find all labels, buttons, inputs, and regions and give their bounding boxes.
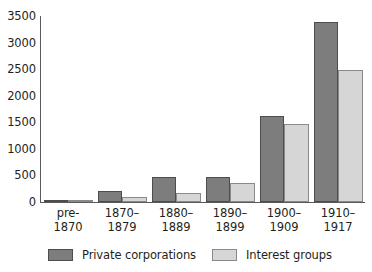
x-axis-line <box>40 202 365 203</box>
bar <box>260 116 285 202</box>
bar <box>314 22 339 202</box>
bar-group <box>257 16 311 202</box>
bar <box>206 177 231 202</box>
legend-item[interactable]: Private corporations <box>48 246 196 264</box>
y-tick-label: 2500 <box>7 64 36 75</box>
x-axis-label-line: 1870 <box>41 220 95 234</box>
x-axis-label-line: 1890– <box>203 206 257 220</box>
y-tick-label: 1500 <box>7 117 36 128</box>
bar-group <box>203 16 257 202</box>
y-tick-label: 3500 <box>7 11 36 22</box>
bar <box>338 70 363 202</box>
bar <box>176 193 201 202</box>
y-tick-label: 3000 <box>7 37 36 48</box>
legend-item[interactable]: Interest groups <box>212 246 332 264</box>
x-axis-label-line: 1879 <box>95 220 149 234</box>
bar <box>230 183 255 202</box>
bar-group <box>95 16 149 202</box>
y-tick-label: 2000 <box>7 90 36 101</box>
legend-label: Private corporations <box>82 249 196 261</box>
x-axis-label-line: 1880– <box>149 206 203 220</box>
x-axis-category-labels: pre-18701870–18791880–18891890–18991900–… <box>41 206 365 240</box>
x-axis-label: pre-1870 <box>41 206 95 234</box>
legend-label: Interest groups <box>246 249 332 261</box>
x-axis-label-line: 1870– <box>95 206 149 220</box>
x-axis-label: 1900–1909 <box>257 206 311 234</box>
x-axis-label-line: pre- <box>41 206 95 220</box>
bar-chart: 0500100015002000250030003500 pre-1870187… <box>0 0 372 272</box>
legend-swatch <box>48 249 73 261</box>
bar <box>98 191 123 202</box>
bar <box>44 200 69 202</box>
x-axis-label-line: 1909 <box>257 220 311 234</box>
x-axis-label: 1890–1899 <box>203 206 257 234</box>
bar-group <box>149 16 203 202</box>
y-tick-label: 0 <box>29 197 36 208</box>
bar <box>68 200 93 202</box>
plot-area <box>41 16 365 202</box>
bar <box>122 197 147 202</box>
bar-group <box>311 16 365 202</box>
y-axis-tick-labels: 0500100015002000250030003500 <box>0 0 38 210</box>
x-axis-label: 1880–1889 <box>149 206 203 234</box>
x-axis-label: 1870–1879 <box>95 206 149 234</box>
y-tick-label: 1000 <box>7 143 36 154</box>
chart-legend: Private corporationsInterest groups <box>0 246 372 268</box>
x-axis-label-line: 1889 <box>149 220 203 234</box>
x-axis-label-line: 1900– <box>257 206 311 220</box>
bar <box>284 124 309 202</box>
x-axis-label-line: 1917 <box>311 220 365 234</box>
x-axis-label-line: 1899 <box>203 220 257 234</box>
legend-swatch <box>212 249 237 261</box>
x-axis-label: 1910–1917 <box>311 206 365 234</box>
bar-group <box>41 16 95 202</box>
x-axis-label-line: 1910– <box>311 206 365 220</box>
bar <box>152 177 177 203</box>
y-tick-label: 500 <box>14 170 36 181</box>
